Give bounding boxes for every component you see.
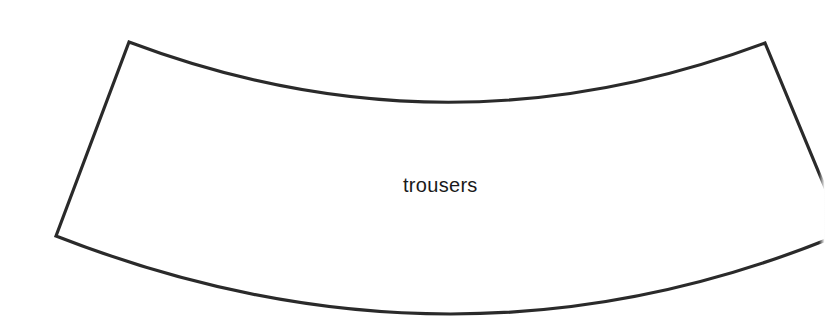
piece-label: trousers bbox=[403, 174, 478, 197]
clipped-edge bbox=[819, 0, 826, 332]
pattern-piece-diagram bbox=[0, 0, 826, 332]
